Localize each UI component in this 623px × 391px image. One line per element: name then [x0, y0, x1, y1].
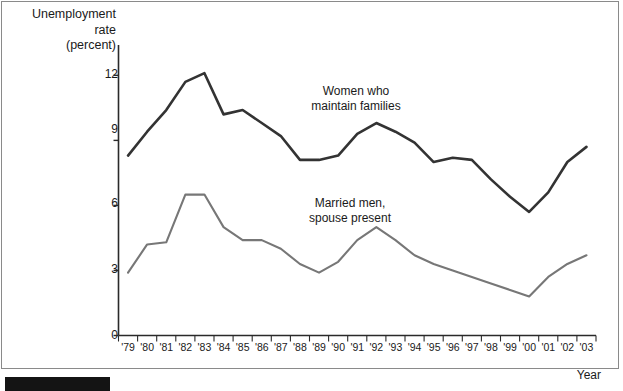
y-tick-label-3: 3 [92, 262, 118, 276]
y-tick-label-0: 0 [92, 328, 118, 342]
x-tick-label-03: '03 [574, 341, 598, 353]
series-label-married-men: Married men, spouse present [291, 196, 409, 225]
y-tick-label-12: 12 [92, 67, 118, 81]
x-axis-title: Year [577, 368, 601, 382]
y-axis-title: Unemployment rate (percent) [8, 7, 116, 54]
figure-border [1, 1, 619, 369]
y-tick-label-6: 6 [92, 196, 118, 210]
footer-black-bar [5, 377, 110, 391]
series-label-women: Women who maintain families [297, 84, 415, 113]
y-tick-label-9: 9 [92, 122, 118, 136]
